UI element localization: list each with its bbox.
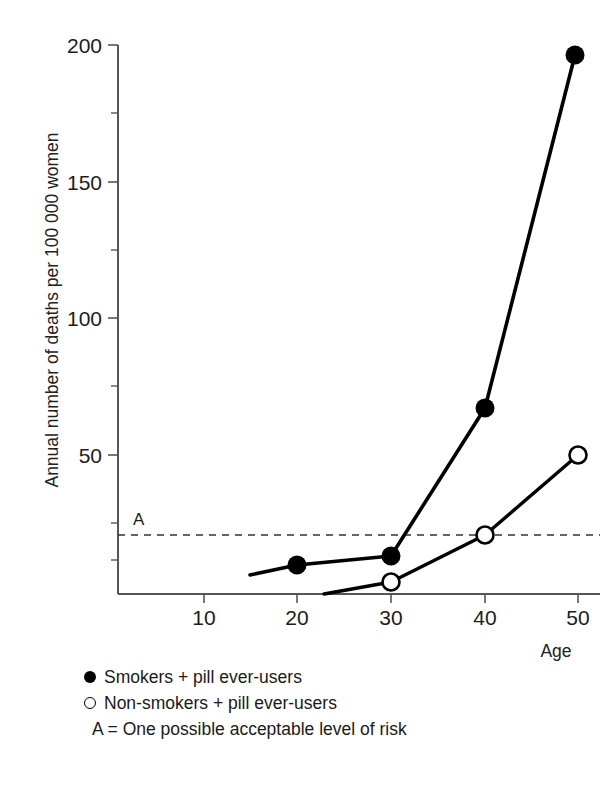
y-axis-minor-ticks	[111, 113, 118, 560]
data-point-non-smokers-age50	[570, 447, 587, 464]
y-tick-label-150: 150	[67, 171, 102, 194]
chart-legend: Smokers + pill ever-users Non-smokers + …	[78, 664, 548, 742]
x-tick-label-10: 10	[192, 606, 215, 629]
filled-circle-marker-icon	[78, 671, 102, 683]
legend-item-non-smokers: Non-smokers + pill ever-users	[78, 690, 548, 716]
legend-note-row: A = One possible acceptable level of ris…	[78, 716, 548, 742]
legend-note-acceptable-risk: A = One possible acceptable level of ris…	[78, 719, 407, 740]
data-point-smokers-age20	[288, 556, 307, 575]
data-point-non-smokers-age40	[477, 527, 494, 544]
x-tick-label-40: 40	[473, 606, 496, 629]
series-markers-smokers	[288, 46, 585, 575]
series-line-non-smokers	[324, 455, 578, 594]
series-line-smokers	[250, 55, 575, 575]
data-point-non-smokers-age30	[383, 574, 400, 591]
y-tick-label-50: 50	[79, 444, 102, 467]
y-tick-label-200: 200	[67, 34, 102, 57]
y-axis-title: Annual number of deaths per 100 000 wome…	[42, 132, 62, 487]
open-circle-marker-icon	[78, 697, 102, 709]
data-point-smokers-age50	[566, 46, 585, 65]
y-tick-label-100: 100	[67, 307, 102, 330]
legend-label-non-smokers: Non-smokers + pill ever-users	[102, 693, 337, 714]
data-point-smokers-age30	[382, 547, 401, 566]
x-axis-title: Age	[540, 641, 571, 661]
legend-label-smokers: Smokers + pill ever-users	[102, 667, 302, 688]
x-tick-label-30: 30	[379, 606, 402, 629]
data-point-smokers-age40	[476, 399, 495, 418]
x-axis-ticks	[204, 594, 578, 603]
x-tick-label-50: 50	[566, 606, 589, 629]
chart-figure: 200 150 100 50 10 20 30 40 50 Annual num…	[0, 0, 614, 789]
legend-item-smokers: Smokers + pill ever-users	[78, 664, 548, 690]
x-tick-label-20: 20	[285, 606, 308, 629]
annotation-a-label: A	[133, 510, 145, 529]
